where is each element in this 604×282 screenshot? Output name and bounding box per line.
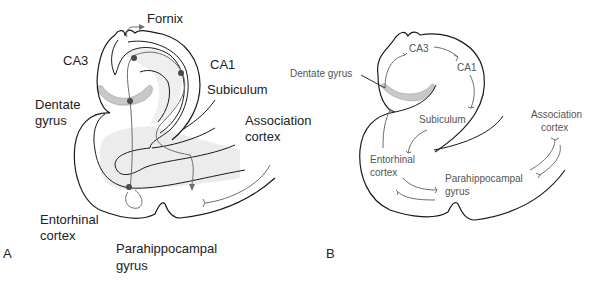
label-subiculum: Subiculum: [207, 82, 268, 97]
pathway-ca1-sub-b: [470, 75, 474, 108]
hippocampus-diagram: [0, 0, 604, 282]
label-ca1-b: CA1: [457, 62, 476, 74]
pathway-ec-ph-b: [403, 178, 437, 190]
fornix-arrow-icon: [139, 24, 145, 30]
label-ca1: CA1: [210, 57, 235, 72]
inner-fold-7: [182, 100, 215, 130]
dentate-gyrus-shape: [97, 85, 152, 105]
pathway-dg-ca3-b: [385, 55, 405, 88]
label-dentate-b: Dentate gyrus: [290, 68, 352, 80]
neuron-ca3-icon: [131, 55, 137, 61]
pathway-ph-ec-b: [398, 192, 435, 200]
label-entorhinal-2: cortex: [40, 228, 75, 243]
synapse-icon: [203, 199, 205, 207]
label-association-b-2: cortex: [541, 122, 568, 134]
label-entorhinal-1: Entorhinal: [40, 212, 99, 227]
pathway-assoc-ph-b: [540, 145, 560, 175]
cortex-shading: [100, 126, 240, 190]
label-ca3-b: CA3: [409, 43, 428, 55]
label-dentate-2: gyrus: [35, 113, 67, 128]
label-association-2: cortex: [245, 129, 280, 144]
panel-letter-b: B: [326, 246, 335, 261]
label-ca3: CA3: [63, 53, 88, 68]
label-fornix: Fornix: [147, 11, 183, 26]
neuron-ca1-icon: [178, 70, 184, 76]
panel-letter-a: A: [3, 246, 12, 261]
neuron-dg-icon: [127, 98, 133, 104]
pathway-ec-dg-b: [383, 110, 390, 148]
label-dentate-1: Dentate: [35, 97, 81, 112]
pathway-loop: [126, 190, 142, 208]
neuron-ec-icon: [126, 184, 132, 190]
label-entorhinal-b-1: Entorhinal: [370, 154, 415, 166]
label-parahippocampal-2: gyrus: [116, 258, 148, 273]
pathway-arrow-icon: [189, 184, 195, 191]
label-parahippocampal-b-1: Parahippocampal: [445, 173, 523, 185]
label-entorhinal-b-2: cortex: [370, 167, 397, 179]
label-parahippocampal-b-2: gyrus: [445, 186, 469, 198]
label-subiculum-b: Subiculum: [419, 114, 466, 126]
label-association-1: Association: [245, 113, 311, 128]
label-association-b-1: Association: [531, 109, 582, 121]
pathway-sub-ec-b: [408, 130, 427, 153]
label-parahippocampal-1: Parahippocampal: [116, 241, 217, 256]
